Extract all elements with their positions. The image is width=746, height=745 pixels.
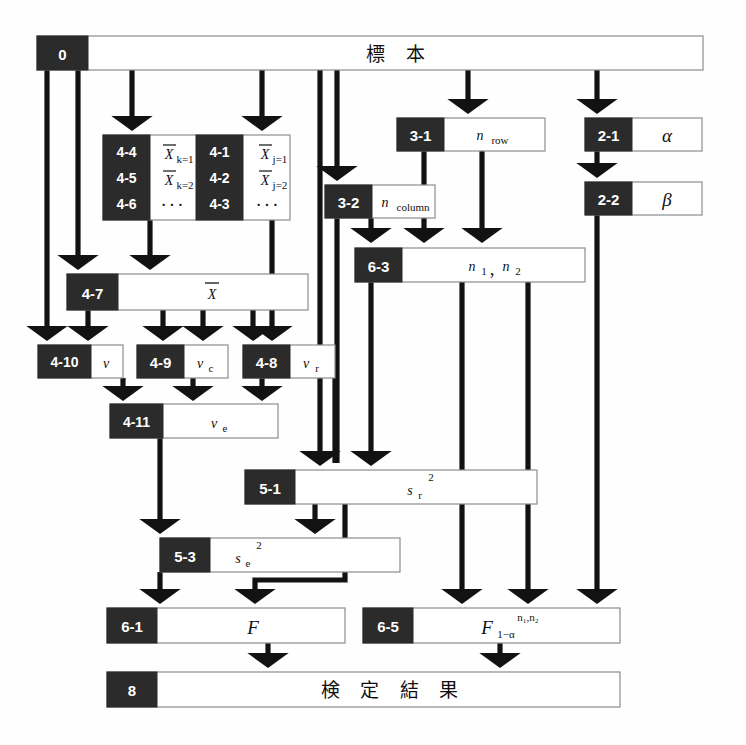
node-n1n2[interactable]: 6-3 n 1 , n 2 bbox=[355, 248, 585, 282]
node-result[interactable]: 8 検 定 結 果 bbox=[107, 672, 620, 707]
node-xbar-k1-sub: k=1 bbox=[176, 153, 193, 165]
node-s-r2[interactable]: 5-1 s r 2 bbox=[245, 470, 537, 504]
node-grand-mean[interactable]: 4-7 X bbox=[67, 274, 308, 310]
node-nu-e-tag: 4-11 bbox=[123, 414, 150, 430]
node-n1n2-sub1: 1 bbox=[481, 265, 487, 277]
node-f-label: F bbox=[246, 617, 259, 638]
node-xbar-k2-var: X bbox=[164, 173, 174, 188]
node-xbar-jdots-tag: 4-3 bbox=[209, 196, 229, 212]
node-nu-c-var: v bbox=[197, 356, 204, 371]
node-xbar-j2-sub: j=2 bbox=[272, 179, 288, 191]
node-n-row-sub: row bbox=[491, 134, 508, 146]
flow-diagram: 0 標 本 4-4 4-5 4-6 4-1 4-2 4-3 X k=1 X k= bbox=[0, 0, 746, 745]
node-nu-c[interactable]: 4-9 v c bbox=[137, 345, 228, 378]
node-grand-mean-var: X bbox=[207, 287, 217, 302]
node-result-tag: 8 bbox=[128, 682, 136, 699]
node-xbar-j2-tag: 4-2 bbox=[209, 170, 229, 186]
node-alpha-tag: 2-1 bbox=[598, 127, 620, 144]
node-f-tag: 6-1 bbox=[121, 618, 143, 635]
node-alpha-label: α bbox=[662, 125, 673, 146]
node-nu-e-var: v bbox=[211, 416, 218, 431]
node-nu-r[interactable]: 4-8 v r bbox=[243, 345, 335, 378]
node-nu-c-tag: 4-9 bbox=[150, 354, 172, 371]
node-xbar-grid[interactable]: 4-4 4-5 4-6 4-1 4-2 4-3 X k=1 X k=2 ··· … bbox=[103, 135, 290, 220]
node-xbar-kdots-tag: 4-6 bbox=[116, 196, 136, 212]
node-grand-mean-tag: 4-7 bbox=[82, 285, 104, 302]
node-xbar-k1-tag: 4-4 bbox=[116, 144, 136, 160]
node-nu-c-sub: c bbox=[209, 362, 214, 374]
node-n1n2-comma: , bbox=[490, 258, 495, 279]
node-xbar-jdots-label: ··· bbox=[256, 194, 281, 215]
node-nu[interactable]: 4-10 v bbox=[38, 345, 123, 378]
node-n-column-tag: 3-2 bbox=[338, 194, 360, 211]
node-n1n2-sub2: 2 bbox=[515, 265, 521, 277]
node-s-r2-sup: 2 bbox=[428, 471, 434, 483]
node-sample-tag: 0 bbox=[58, 46, 66, 63]
node-beta-label: β bbox=[661, 189, 672, 210]
node-sample-label: 標 本 bbox=[366, 43, 431, 65]
node-n-row-var: n bbox=[477, 128, 484, 143]
node-s-e2-tag: 5-3 bbox=[174, 548, 196, 565]
node-n1n2-var2: n bbox=[503, 259, 510, 274]
node-n-column[interactable]: 3-2 n column bbox=[325, 185, 435, 218]
node-xbar-k1-var: X bbox=[164, 147, 174, 162]
node-sample[interactable]: 0 標 本 bbox=[37, 36, 703, 70]
node-f-crit-var: F bbox=[480, 617, 493, 638]
node-nu-var: v bbox=[103, 356, 110, 371]
node-nu-tag: 4-10 bbox=[50, 354, 78, 370]
node-nu-r-tag: 4-8 bbox=[256, 354, 278, 371]
node-f-crit-tag: 6-5 bbox=[377, 618, 399, 635]
node-n-row[interactable]: 3-1 n row bbox=[397, 118, 545, 151]
node-beta-tag: 2-2 bbox=[598, 191, 620, 208]
node-s-r2-var: s bbox=[407, 483, 413, 498]
node-s-r2-sub: r bbox=[418, 489, 422, 501]
node-s-e2-sub: e bbox=[246, 557, 251, 569]
node-s-e2-var: s bbox=[235, 551, 241, 566]
node-s-r2-tag: 5-1 bbox=[259, 480, 281, 497]
node-s-e2-sup: 2 bbox=[256, 539, 262, 551]
node-xbar-j1-var: X bbox=[260, 147, 270, 162]
node-xbar-kdots-label: ··· bbox=[161, 194, 186, 215]
node-beta[interactable]: 2-2 β bbox=[585, 182, 702, 215]
node-xbar-j1-sub: j=1 bbox=[272, 153, 288, 165]
node-result-label: 検 定 結 果 bbox=[321, 679, 464, 701]
node-f-crit-sup: n₁,n₂ bbox=[517, 611, 539, 623]
node-n-column-var: n bbox=[382, 195, 389, 210]
node-xbar-k2-tag: 4-5 bbox=[116, 170, 136, 186]
node-n-row-tag: 3-1 bbox=[410, 127, 432, 144]
node-nu-r-sub: r bbox=[315, 362, 319, 374]
node-nu-r-var: v bbox=[303, 356, 310, 371]
node-f-crit-sub: 1−α bbox=[497, 628, 515, 640]
node-f[interactable]: 6-1 F bbox=[107, 608, 345, 643]
node-nu-e-sub: e bbox=[223, 422, 228, 434]
node-s-e2[interactable]: 5-3 s e 2 bbox=[160, 538, 400, 572]
node-xbar-k2-sub: k=2 bbox=[176, 179, 193, 191]
node-f-crit[interactable]: 6-5 F 1−α n₁,n₂ bbox=[363, 608, 620, 643]
flow-diagram-canvas: 0 標 本 4-4 4-5 4-6 4-1 4-2 4-3 X k=1 X k= bbox=[0, 0, 746, 745]
node-xbar-j1-tag: 4-1 bbox=[209, 144, 229, 160]
node-nu-e[interactable]: 4-11 v e bbox=[110, 404, 278, 438]
node-alpha[interactable]: 2-1 α bbox=[585, 118, 702, 151]
node-xbar-j2-var: X bbox=[260, 173, 270, 188]
node-n-column-sub: column bbox=[397, 201, 430, 213]
node-n1n2-var1: n bbox=[469, 259, 476, 274]
node-n1n2-tag: 6-3 bbox=[368, 258, 390, 275]
